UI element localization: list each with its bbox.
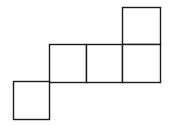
square-net-diagram <box>0 0 174 125</box>
square-middle-left <box>50 45 87 83</box>
square-middle-center <box>87 45 123 83</box>
square-bottom-left <box>14 82 50 120</box>
square-middle-right <box>123 45 161 83</box>
square-top-right <box>123 8 161 45</box>
